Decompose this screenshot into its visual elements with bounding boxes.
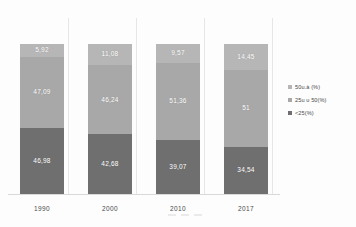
square-marker-icon — [288, 111, 292, 115]
bar-segment-bottom[interactable]: 46,98 — [20, 128, 64, 194]
bar-segment-label: 11,08 — [102, 51, 119, 58]
bar-segment-label: 46,98 — [33, 158, 50, 165]
bar-segment-top[interactable]: 9,57 — [156, 44, 200, 63]
bar-segment-label: 39,07 — [169, 164, 186, 171]
bar-segment-label: 47,09 — [33, 89, 50, 96]
bar-segment-middle[interactable]: 47,09 — [20, 57, 64, 128]
bar-segment-label: 9,57 — [171, 50, 184, 57]
bar-segment-bottom[interactable]: 39,07 — [156, 140, 200, 194]
bar-group-1990: 5,92 47,09 46,98 — [8, 18, 76, 194]
stacked-bar[interactable]: 5,92 47,09 46,98 — [20, 44, 64, 194]
x-axis-tick-label: 2000 — [102, 205, 118, 212]
x-axis-tick-2000: 2000 — [76, 197, 144, 215]
x-axis-tick-2017: 2017 — [212, 197, 280, 215]
bar-group-2000: 11,08 46,24 42,68 — [76, 18, 144, 194]
bar-segment-middle[interactable]: 51,36 — [156, 63, 200, 140]
bar-segment-label: 5,92 — [35, 47, 48, 54]
bar-segment-bottom[interactable]: 34,54 — [224, 147, 268, 194]
bar-segment-label: 42,68 — [101, 161, 118, 168]
stacked-bar[interactable]: 14,45 51 34,54 — [224, 44, 268, 194]
bar-group-2010: 9,57 51,36 39,07 — [144, 18, 212, 194]
plot-area: 5,92 47,09 46,98 11,08 4 — [8, 18, 280, 194]
legend-item-label: <25(%) — [295, 110, 314, 116]
square-marker-icon — [288, 85, 292, 89]
bar-segment-middle[interactable]: 46,24 — [88, 65, 132, 134]
bar-segment-top[interactable]: 14,45 — [224, 44, 268, 70]
scan-artifact — [168, 212, 202, 218]
bar-segment-label: 14,45 — [237, 54, 254, 61]
bar-segment-label: 51,36 — [169, 98, 186, 105]
stacked-bar[interactable]: 9,57 51,36 39,07 — [156, 44, 200, 194]
x-axis-labels: 1990 2000 2010 2017 — [8, 197, 280, 215]
bar-segment-label: 34,54 — [237, 167, 254, 174]
bars-row: 5,92 47,09 46,98 11,08 4 — [8, 18, 280, 194]
legend-item-25-to-50[interactable]: 25u u 50(%) — [288, 96, 354, 104]
x-axis-tick-1990: 1990 — [8, 197, 76, 215]
x-axis-line — [8, 194, 280, 195]
stacked-bar-chart: 5,92 47,09 46,98 11,08 4 — [0, 0, 356, 227]
bar-group-2017: 14,45 51 34,54 — [212, 18, 280, 194]
legend-item-under-25[interactable]: <25(%) — [288, 109, 354, 117]
bar-segment-bottom[interactable]: 42,68 — [88, 134, 132, 194]
bar-segment-top[interactable]: 11,08 — [88, 44, 132, 65]
bar-segment-label: 51 — [242, 105, 250, 112]
bar-segment-top[interactable]: 5,92 — [20, 44, 64, 57]
square-marker-icon — [288, 98, 292, 102]
bar-segment-label: 46,24 — [101, 97, 118, 104]
x-axis-tick-label: 1990 — [34, 205, 50, 212]
x-axis-tick-label: 2010 — [170, 205, 186, 212]
chart-legend: 50u.à (%) 25u u 50(%) <25(%) — [288, 83, 354, 122]
stacked-bar[interactable]: 11,08 46,24 42,68 — [88, 44, 132, 194]
x-axis-tick-label: 2017 — [238, 205, 254, 212]
legend-item-label: 25u u 50(%) — [295, 97, 327, 103]
legend-item-50-and-above[interactable]: 50u.à (%) — [288, 83, 354, 91]
legend-item-label: 50u.à (%) — [295, 84, 320, 90]
bar-segment-middle[interactable]: 51 — [224, 70, 268, 147]
